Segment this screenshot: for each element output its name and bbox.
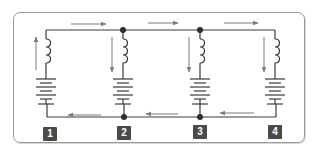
junction-dot: [197, 27, 203, 33]
branch-label-1: 1: [43, 127, 57, 141]
coil-icon: [123, 39, 128, 63]
branch-label-2: 2: [117, 126, 131, 140]
battery-icon: [113, 79, 133, 99]
coil-icon: [200, 39, 205, 63]
battery-icon: [36, 79, 56, 99]
branch-label-3: 3: [193, 125, 207, 139]
branch-4: [265, 30, 285, 117]
current-arrows: [36, 23, 264, 115]
coil-icon: [46, 39, 51, 63]
branch-3: [190, 30, 210, 117]
battery-icon: [265, 79, 285, 99]
branch-2: [113, 30, 133, 117]
junction-dot: [197, 114, 203, 120]
junctions: [120, 27, 203, 120]
junction-dot: [121, 114, 127, 120]
battery-icon: [190, 79, 210, 99]
junction-dot: [120, 27, 126, 33]
branch-label-4: 4: [268, 125, 282, 139]
coil-icon: [275, 39, 280, 63]
branch-1: [36, 30, 56, 117]
